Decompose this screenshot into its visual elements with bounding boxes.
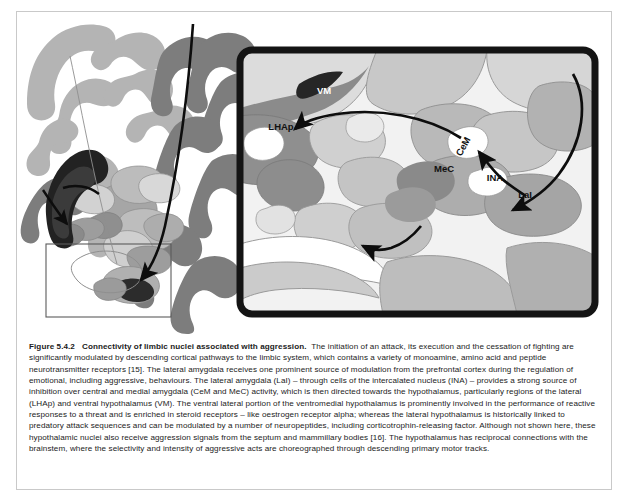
label-lai: LaI	[518, 189, 532, 200]
label-vm: VM	[317, 85, 331, 96]
brain-connectivity-illustration: VM LHAp CeM MeC INA LaI	[17, 12, 611, 334]
inset-content: VM LHAp CeM MeC INA LaI	[240, 50, 595, 314]
figure-graphic: VM LHAp CeM MeC INA LaI	[17, 12, 611, 334]
figure-caption: Figure 5.4.2 Connectivity of limbic nucl…	[29, 341, 601, 454]
inset-panel: VM LHAp CeM MeC INA LaI	[240, 50, 595, 314]
figure-page: VM LHAp CeM MeC INA LaI Figure 5.4.2 Con…	[0, 0, 628, 504]
caption-title: Connectivity of limbic nuclei associated…	[82, 342, 307, 351]
coronal-section-overview	[21, 24, 268, 334]
caption-body: The initiation of an attack, its executi…	[29, 342, 596, 453]
label-lhap: LHAp	[268, 121, 294, 132]
label-ina: INA	[487, 172, 504, 183]
label-mec: MeC	[434, 163, 454, 174]
caption-label: Figure 5.4.2	[29, 342, 75, 351]
